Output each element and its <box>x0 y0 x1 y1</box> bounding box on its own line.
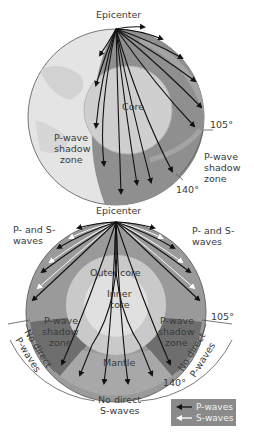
legend-s-waves: S-waves <box>196 413 234 423</box>
left-shadow-2: shadow <box>42 326 79 337</box>
mantle-label: Mantle <box>103 357 135 368</box>
top-right-zone-1: P-wave <box>204 151 238 162</box>
inner-core-label-1: Inner <box>107 288 132 299</box>
bottom-angle-140: 140° <box>163 377 186 388</box>
top-angle-105: 105° <box>210 119 233 130</box>
bottom-angle-105: 105° <box>211 311 234 322</box>
top-epicenter-label: Epicenter <box>96 9 141 20</box>
top-core-label: Core <box>122 101 144 112</box>
top-angle-140: 140° <box>176 184 199 195</box>
right-waves-1: P- and S- <box>192 225 234 236</box>
top-left-zone-1: P-wave <box>54 132 88 143</box>
seismic-wave-diagram: Epicenter Core P-wave shadow zone 105° 1… <box>0 0 254 441</box>
no-direct-s-2: S-waves <box>100 405 140 416</box>
right-shadow-2: shadow <box>158 326 195 337</box>
right-shadow-1: P-wave <box>160 315 194 326</box>
no-direct-s-1: No direct <box>98 394 141 405</box>
legend-p-waves: P-waves <box>196 402 233 412</box>
top-left-zone-3: zone <box>60 154 83 165</box>
top-globe: Epicenter Core P-wave shadow zone 105° 1… <box>28 9 241 220</box>
left-shadow-1: P-wave <box>44 315 78 326</box>
inner-core-label-2: core <box>109 299 130 310</box>
left-waves-1: P- and S- <box>13 224 55 235</box>
legend: P-waves S-waves <box>171 399 236 426</box>
outer-core-label: Outer core <box>90 267 141 278</box>
right-waves-2: waves <box>192 236 222 247</box>
top-right-zone-2: shadow <box>204 162 241 173</box>
top-left-zone-2: shadow <box>54 143 91 154</box>
top-right-zone-3: zone <box>204 173 227 184</box>
left-waves-2: waves <box>13 235 43 246</box>
right-shadow-3: zone <box>165 337 188 348</box>
bottom-globe: Epicenter P- and S- waves P- and S- wave… <box>8 205 234 416</box>
left-shadow-3: zone <box>49 337 72 348</box>
bottom-epicenter-label: Epicenter <box>96 205 141 216</box>
